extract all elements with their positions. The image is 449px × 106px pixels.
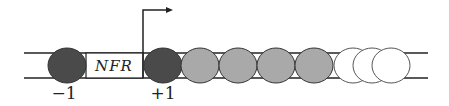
nucleosome-plus-3 (219, 48, 257, 83)
nucleosome-diagram: NFR −1 +1 (0, 0, 449, 106)
nucleosome-plus-4 (257, 48, 295, 83)
nucleosome-plus-1 (144, 48, 182, 83)
nucleosome-plus-8 (372, 48, 410, 83)
nucleosome-plus-5 (295, 48, 333, 83)
nucleosome-plus-2 (181, 48, 219, 83)
label-minus-one: −1 (51, 83, 76, 103)
label-plus-one: +1 (150, 83, 175, 103)
nucleosome-minus-1 (48, 48, 86, 83)
nfr-label: NFR (94, 57, 133, 75)
